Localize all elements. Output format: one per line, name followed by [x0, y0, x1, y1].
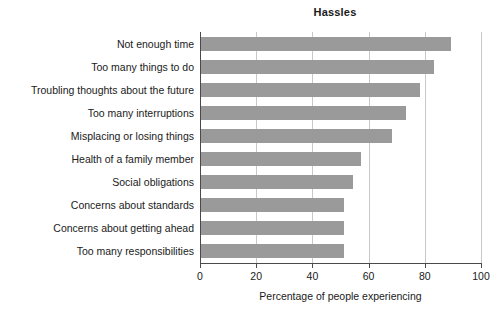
bar	[201, 60, 434, 74]
bar	[201, 129, 392, 143]
x-tick-label: 0	[180, 270, 220, 282]
y-axis-label: Social obligations	[0, 176, 194, 188]
x-tick-mark	[256, 263, 257, 268]
bar	[201, 221, 344, 235]
bar	[201, 152, 361, 166]
y-axis-label: Too many interruptions	[0, 107, 194, 119]
x-tick-label: 60	[349, 270, 389, 282]
gridline-100	[481, 32, 482, 263]
x-tick-label: 20	[236, 270, 276, 282]
x-tick-mark	[481, 263, 482, 268]
x-tick-mark	[425, 263, 426, 268]
plot-area	[200, 32, 481, 263]
bar	[201, 106, 406, 120]
y-axis-label: Too many responsibilities	[0, 245, 194, 257]
bar	[201, 198, 344, 212]
x-axis-title: Percentage of people experiencing	[200, 290, 481, 302]
footer-artifact	[0, 316, 500, 325]
y-axis-label: Misplacing or losing things	[0, 130, 194, 142]
y-axis-label: Health of a family member	[0, 153, 194, 165]
chart-title: Hassles	[0, 6, 500, 18]
x-tick-label: 100	[461, 270, 500, 282]
bar	[201, 244, 344, 258]
y-axis-category-labels: Not enough timeToo many things to doTrou…	[0, 32, 194, 263]
bar	[201, 83, 420, 97]
chart-figure: Hassles Not enough timeToo many things t…	[0, 0, 500, 325]
y-axis-label: Troubling thoughts about the future	[0, 84, 194, 96]
x-tick-mark	[200, 263, 201, 268]
y-axis-label: Too many things to do	[0, 61, 194, 73]
x-tick-label: 40	[292, 270, 332, 282]
x-tick-label: 80	[405, 270, 445, 282]
x-axis-line	[200, 263, 481, 264]
x-tick-mark	[312, 263, 313, 268]
bar	[201, 37, 451, 51]
y-axis-label: Not enough time	[0, 38, 194, 50]
y-axis-label: Concerns about standards	[0, 199, 194, 211]
bar	[201, 175, 353, 189]
y-axis-label: Concerns about getting ahead	[0, 222, 194, 234]
x-tick-mark	[369, 263, 370, 268]
